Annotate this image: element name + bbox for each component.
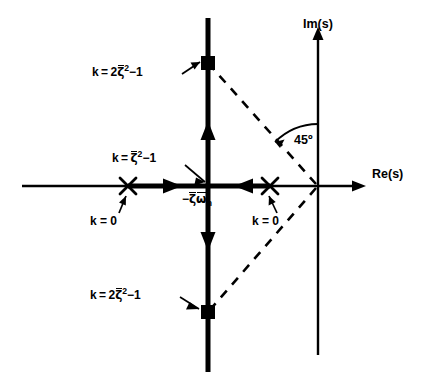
root-locus-figure: Im(s) Re(s) 45º k = 2ζ2−1 k = ζ2−1 k = 2… — [0, 0, 430, 384]
zeta-bar-breakaway: ζ — [131, 152, 138, 164]
omega-subscript-n: n — [207, 198, 213, 208]
locus-arrow-left — [234, 179, 253, 194]
centroid-minus: − — [182, 192, 189, 206]
root-locus-plot — [0, 0, 430, 384]
branch-label-upper: k = 2ζ2−1 — [92, 64, 143, 78]
zeta-bar-lower: ζ — [115, 289, 122, 301]
zeta-bar-centroid: ζ — [189, 193, 196, 205]
locus-arrow-down — [201, 232, 216, 251]
imaginary-axis-label: Im(s) — [303, 18, 333, 31]
branch-label-upper-text: k = 2 — [92, 65, 117, 79]
real-axis-label: Re(s) — [372, 168, 403, 181]
branch-label-upper-tail: −1 — [129, 65, 143, 79]
branch-label-lower-text: k = 2 — [90, 288, 115, 302]
zeta-bar-upper: ζ — [117, 66, 124, 78]
locus-arrow-right — [163, 179, 182, 194]
breakaway-label-tail: −1 — [142, 151, 156, 165]
breakaway-label: k = ζ2−1 — [112, 150, 156, 164]
branch-point-marker-upper — [201, 56, 215, 70]
real-axis-arrowhead — [352, 181, 366, 192]
leader-breakaway — [185, 165, 205, 182]
upper-45-asymptote — [209, 64, 316, 184]
lower-45-asymptote — [209, 188, 316, 311]
branch-label-lower: k = 2ζ2−1 — [90, 287, 141, 301]
branch-point-marker-lower — [201, 305, 215, 319]
pole-label-right: k = 0 — [252, 215, 279, 227]
breakaway-label-text: k = — [112, 151, 131, 165]
locus-arrow-up — [201, 121, 216, 140]
omega-bar-centroid: ω — [196, 193, 206, 205]
centroid-label: −ζωn — [182, 193, 212, 208]
pole-label-left: k = 0 — [90, 215, 117, 227]
branch-label-lower-tail: −1 — [127, 288, 141, 302]
angle-label: 45º — [294, 134, 312, 147]
